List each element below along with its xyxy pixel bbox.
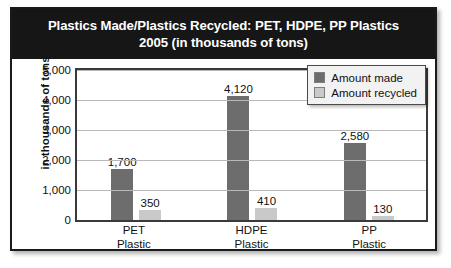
chart-title: Plastics Made/Plastics Recycled: PET, HD… [38,17,409,51]
y-axis-tick-1000: 1,000 [42,184,71,196]
bar-made[interactable]: 4,120 [227,96,249,220]
legend-item[interactable]: Amount made [314,70,417,85]
chart-legend: Amount madeAmount recycled [307,65,426,105]
legend-item[interactable]: Amount recycled [314,85,417,100]
x-axis-label: PP Plastic [310,224,428,251]
legend-label: Amount made [331,72,403,84]
bar-recycled[interactable]: 130 [372,216,394,220]
bar-made[interactable]: 2,580 [344,143,366,220]
x-axis-category-labels: PET PlasticHDPE PlasticPP Plastic [75,224,428,251]
gridline-3000 [77,130,426,131]
y-axis-tick-labels: 01,0002,0003,0004,0005,000 [34,68,74,222]
bar-value-label: 1,700 [108,156,137,168]
legend-swatch-icon [314,87,325,98]
y-axis-tick-4000: 4,000 [42,94,71,106]
legend-swatch-icon [314,72,325,83]
bar-value-label: 2,580 [340,130,369,142]
chart-body: in thousands of tons 01,0002,0003,0004,0… [12,59,435,249]
gridline-1000 [77,190,426,191]
bar-made[interactable]: 1,700 [111,169,133,220]
bar-group: 1,700350 [77,70,193,220]
bar-recycled[interactable]: 350 [139,210,161,221]
x-axis-label: HDPE Plastic [193,224,311,251]
y-axis-tick-3000: 3,000 [42,124,71,136]
y-axis-tick-2000: 2,000 [42,154,71,166]
y-axis-tick-0: 0 [65,214,71,226]
y-axis-tick-5000: 5,000 [42,64,71,76]
gridline-2000 [77,160,426,161]
bar-value-label: 350 [141,197,160,209]
legend-label: Amount recycled [331,87,417,99]
bar-recycled[interactable]: 410 [255,208,277,220]
bar-value-label: 130 [373,203,392,215]
bar-value-label: 4,120 [224,83,253,95]
bar-value-label: 410 [257,195,276,207]
bar-group: 4,120410 [193,70,309,220]
chart-card: Plastics Made/Plastics Recycled: PET, HD… [10,7,437,251]
x-axis-label: PET Plastic [75,224,193,251]
chart-title-bar: Plastics Made/Plastics Recycled: PET, HD… [12,9,435,59]
